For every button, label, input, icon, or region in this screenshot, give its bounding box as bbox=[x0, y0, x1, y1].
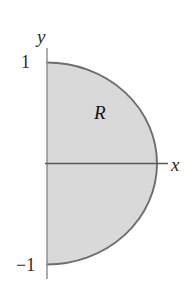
figure-canvas bbox=[0, 0, 195, 291]
y-axis-label: y bbox=[37, 27, 45, 46]
x-axis-label: x bbox=[171, 155, 179, 174]
y-tick-label-positive-one: 1 bbox=[21, 53, 30, 71]
y-tick-label-negative-one: −1 bbox=[16, 256, 35, 274]
region-label-R: R bbox=[94, 103, 106, 122]
